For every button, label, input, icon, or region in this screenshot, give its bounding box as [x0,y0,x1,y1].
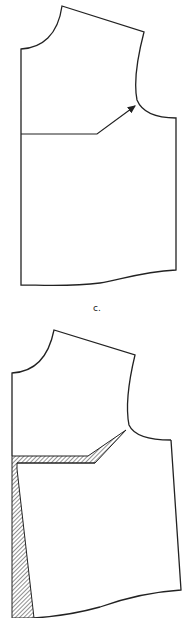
bodice-outline-bottom-upper [12,330,171,456]
bodice-outline-bottom-lower [34,440,181,618]
dart-line-top [21,106,135,134]
bodice-outline-top [21,6,176,286]
bodice-figure-top [21,6,176,286]
figure-label-c: c. [93,303,101,313]
bodice-figure-bottom [12,330,181,618]
hatched-dart-band [12,430,126,618]
